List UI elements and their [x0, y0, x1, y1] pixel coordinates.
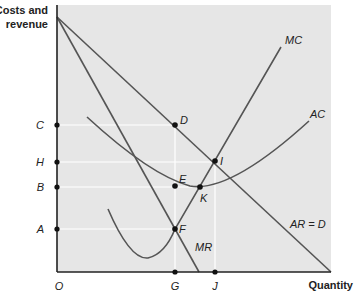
tick-c-dot	[54, 122, 59, 127]
x-axis-title: Quantity	[308, 279, 353, 291]
tick-j-dot	[212, 269, 217, 274]
label-d: D	[180, 114, 188, 126]
tick-h-dot	[54, 159, 59, 164]
y-tick-c: C	[36, 119, 44, 131]
tick-b-dot	[54, 184, 59, 189]
label-mr: MR	[195, 241, 212, 253]
y-tick-h: H	[36, 156, 44, 168]
point-i	[212, 158, 218, 164]
y-tick-a: A	[36, 223, 44, 235]
point-e	[172, 183, 178, 189]
label-mc: MC	[285, 34, 302, 46]
y-axis-title-line1: Costs and	[0, 4, 48, 16]
label-k: K	[200, 192, 208, 204]
point-f	[172, 226, 178, 232]
label-e: E	[179, 173, 187, 185]
point-k	[197, 184, 203, 190]
label-i: I	[220, 155, 223, 167]
diagram-canvas: Costs and revenue Quantity O C H B A G J…	[0, 0, 355, 297]
origin-label: O	[55, 280, 64, 292]
tick-g-dot	[172, 269, 177, 274]
label-ac: AC	[309, 108, 325, 120]
y-tick-b: B	[37, 181, 44, 193]
x-tick-g: G	[171, 280, 180, 292]
tick-a-dot	[54, 226, 59, 231]
point-d	[172, 122, 178, 128]
label-ar-d: AR = D	[289, 218, 326, 230]
x-tick-j: J	[211, 280, 218, 292]
y-axis-title-line2: revenue	[6, 18, 48, 30]
